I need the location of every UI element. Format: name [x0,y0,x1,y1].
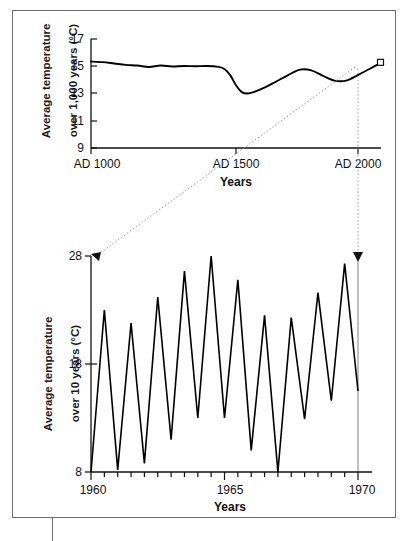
bottom-chart-xticklabel-1965: 1965 [217,483,244,497]
bottom-chart-x-ticks [91,472,358,480]
top-chart-xticklabel-ad1500: AD 1500 [213,157,260,171]
top-chart-x-ticks [91,148,358,154]
top-chart-yticklabel-9: 9 [77,141,84,155]
top-chart-endpoint-marker [378,59,384,65]
top-chart: 17 15 13 11 9 AD 1000 AD 1500 AD 2000 Ye… [71,32,384,189]
top-chart-yticklabel-11: 11 [72,114,85,128]
bottom-chart-y-ticklabels: 28 18 8 [69,249,83,479]
top-chart-yticklabel-15: 15 [71,59,85,73]
bottom-chart-yticklabel-28: 28 [69,249,83,263]
bottom-chart-xticklabel-1970: 1970 [349,483,376,497]
zoom-connectors [91,67,363,472]
top-chart-yticklabel-13: 13 [71,86,85,100]
bottom-chart-x-ticklabels: 1960 1965 1970 [80,483,376,497]
bottom-chart-x-axis-title: Years [214,500,246,514]
top-chart-x-ticklabels: AD 1000 AD 1500 AD 2000 [74,157,382,171]
zoom-connector-right-arrowhead [353,252,363,262]
bottom-chart-xticklabel-1960: 1960 [80,483,107,497]
top-chart-y-ticks [91,39,97,148]
bottom-chart-data-line [91,256,358,472]
top-chart-data-line [91,61,381,93]
bottom-chart-yticklabel-8: 8 [75,465,82,479]
zoom-connector-left-arrowhead [91,252,101,261]
top-chart-y-ticklabels: 17 15 13 11 9 [71,32,85,155]
top-chart-yticklabel-17: 17 [71,32,85,46]
charts-svg: 17 15 13 11 9 AD 1000 AD 1500 AD 2000 Ye… [0,0,414,541]
figure-container: Average temperature over 1,000 years (°C… [0,0,414,541]
bottom-chart: 28 18 8 1960 1965 1970 Years [69,249,376,514]
bottom-chart-yticklabel-18: 18 [69,357,83,371]
top-chart-x-axis-title: Years [220,175,252,189]
top-chart-xticklabel-ad1000: AD 1000 [74,157,121,171]
